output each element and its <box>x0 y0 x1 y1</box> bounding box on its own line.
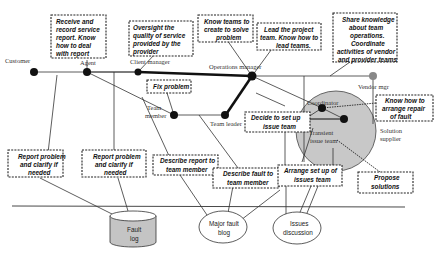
svg-text:arrange repair: arrange repair <box>382 105 425 113</box>
conn-report1 <box>48 75 57 153</box>
svg-text:Oversight the: Oversight the <box>133 24 175 32</box>
label-customer: Customer <box>5 57 31 64</box>
conn-decide <box>256 93 285 106</box>
box-report-clarify-1: Report problem and clarify if needed <box>8 150 66 177</box>
node-customer[interactable] <box>30 68 38 76</box>
label-transient-2: issue team <box>310 137 337 144</box>
link-client-operations <box>138 72 252 76</box>
svg-text:solutions: solutions <box>371 183 400 190</box>
svg-text:Arrange set up of: Arrange set up of <box>283 167 338 175</box>
svg-text:Describe report to: Describe report to <box>160 157 215 165</box>
node-agent[interactable] <box>83 68 91 76</box>
node-vendor-mgr[interactable] <box>369 72 377 80</box>
store-fault-log[interactable]: Fault log <box>110 211 156 247</box>
svg-text:and clarify if: and clarify if <box>95 161 134 169</box>
svg-text:Receive and: Receive and <box>56 18 94 25</box>
link-operations-teamleader <box>225 76 252 116</box>
svg-text:Coordinate: Coordinate <box>351 40 385 47</box>
conn-share <box>330 62 350 76</box>
box-share-knowledge: Share knowledge about team operations. C… <box>333 13 397 64</box>
label-agent: Agent <box>80 59 96 66</box>
label-solution-1: Solution <box>380 127 403 134</box>
store-issues-discussion[interactable]: Issues discussion <box>273 212 321 244</box>
svg-text:about team: about team <box>349 24 383 31</box>
svg-text:blog: blog <box>218 229 231 237</box>
svg-text:Decide to set up: Decide to set up <box>251 114 300 122</box>
collaboration-diagram: Customer Agent Client manager Operations… <box>0 0 436 257</box>
svg-text:of fault: of fault <box>390 113 412 120</box>
svg-text:issue team: issue team <box>263 123 296 130</box>
node-team-member[interactable] <box>170 111 178 119</box>
svg-text:create to solve: create to solve <box>204 26 249 33</box>
svg-text:Fault: Fault <box>127 226 141 233</box>
svg-text:Report problem: Report problem <box>18 153 66 161</box>
label-coordinator: Coordinator <box>307 99 339 106</box>
label-transient-1: Transient <box>309 129 334 136</box>
svg-text:how to deal: how to deal <box>56 42 91 49</box>
box-propose-solutions: Propose solutions <box>358 172 413 193</box>
svg-text:with report: with report <box>56 50 90 58</box>
svg-text:Describe fault to: Describe fault to <box>223 170 273 177</box>
svg-text:lead teams.: lead teams. <box>276 42 311 49</box>
svg-text:Propose: Propose <box>374 174 400 182</box>
svg-text:report. Know: report. Know <box>56 34 96 42</box>
box-know-teams: Know teams to create to solve problem <box>198 15 253 42</box>
label-team-member-2: member <box>145 112 167 119</box>
svg-text:problem: problem <box>215 34 242 42</box>
store-major-fault-blog[interactable]: Major fault blog <box>199 211 247 243</box>
conn-arrange-blog <box>241 190 280 220</box>
box-report-clarify-2: Report problem and clarify if needed <box>82 150 146 177</box>
node-solution-supplier[interactable] <box>340 115 348 123</box>
box-describe-fault: Describe fault to team member <box>213 168 279 188</box>
svg-text:activities of vendor: activities of vendor <box>337 48 396 55</box>
conn-fault-blog <box>228 186 233 213</box>
svg-text:log: log <box>130 235 139 243</box>
label-solution-2: supplier <box>380 135 402 142</box>
svg-text:Issues: Issues <box>290 220 308 227</box>
box-receive-record: Receive and record service report. Know … <box>51 15 106 58</box>
svg-text:needed: needed <box>104 169 127 176</box>
conn-report1-faultlog <box>40 178 112 214</box>
box-fix-problem: Fix problem <box>147 80 191 93</box>
conn-know-teams <box>227 40 252 76</box>
svg-text:team member: team member <box>227 179 269 186</box>
box-decide-issue-team: Decide to set up issue team <box>245 112 310 132</box>
node-client-manager[interactable] <box>135 69 142 76</box>
svg-text:provider: provider <box>132 48 159 56</box>
svg-text:record service: record service <box>56 26 100 33</box>
svg-text:Share knowledge: Share knowledge <box>342 16 395 24</box>
box-oversight: Oversight the quality of service provide… <box>129 21 193 56</box>
svg-text:discussion: discussion <box>283 229 313 236</box>
label-operations-manager: Operations manager <box>209 63 262 70</box>
svg-text:operations.: operations. <box>350 32 385 40</box>
label-team-member-1: Team <box>147 104 161 111</box>
conn-describe-blog <box>180 175 209 218</box>
svg-text:issues team: issues team <box>294 176 331 183</box>
svg-text:provided by the: provided by the <box>132 40 181 48</box>
svg-text:Report problem: Report problem <box>93 153 141 161</box>
label-client-manager: Client manager <box>130 58 171 65</box>
node-operations-manager[interactable] <box>248 72 257 81</box>
svg-text:quality of service: quality of service <box>133 32 186 40</box>
node-team-leader[interactable] <box>221 111 229 119</box>
svg-text:Know how to: Know how to <box>385 97 425 104</box>
label-team-leader: Team leader <box>210 120 243 127</box>
svg-text:Major fault: Major fault <box>209 220 239 228</box>
svg-text:needed: needed <box>28 169 51 176</box>
box-describe-report: Describe report to team member <box>153 155 218 175</box>
box-lead-project: Lead the project team. Know how to lead … <box>257 23 321 50</box>
swimlane-separator <box>12 206 405 207</box>
svg-text:Lead the project: Lead the project <box>264 26 314 34</box>
label-vendor-mgr: Vendor mgr <box>358 83 390 90</box>
svg-text:Fix problem: Fix problem <box>153 83 190 91</box>
svg-text:team member: team member <box>166 166 208 173</box>
box-know-arrange-repair: Know how to arrange repair of fault <box>376 95 433 121</box>
svg-text:team. Know how to: team. Know how to <box>260 34 318 41</box>
svg-text:and provider teams: and provider teams <box>338 56 397 64</box>
box-arrange-issue-team: Arrange set up of issues team <box>278 165 342 186</box>
svg-text:and clarify if: and clarify if <box>20 161 59 169</box>
svg-text:Know teams to: Know teams to <box>204 18 250 25</box>
